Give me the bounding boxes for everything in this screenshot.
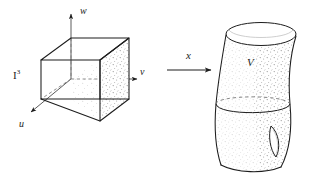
axis-u-line [31, 79, 71, 112]
cube-diagram [31, 14, 137, 121]
axis-label-w: w [80, 6, 87, 16]
cube-face-right [100, 38, 129, 121]
figure-canvas [0, 0, 317, 184]
figure-root: I3 w v u x V [0, 0, 317, 184]
map-arrow-label: x [186, 50, 191, 61]
axis-label-u: u [19, 119, 24, 129]
cube-label: I3 [13, 70, 20, 81]
axis-label-v: v [140, 67, 144, 77]
region-label: V [247, 57, 254, 68]
region-diagram [215, 23, 296, 172]
region-top-rim [226, 23, 296, 46]
